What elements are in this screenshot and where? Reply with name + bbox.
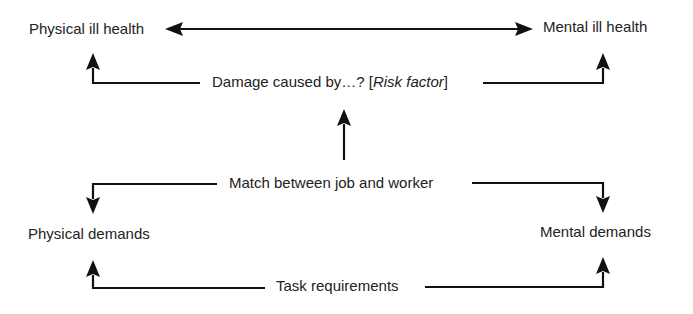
- arrowhead-down-icon: [86, 197, 100, 214]
- arrow-damage-to-mental: [483, 68, 603, 83]
- arrow-match-to-mental-demands: [472, 183, 603, 198]
- arrow-task-to-mental-demands: [425, 272, 603, 287]
- node-mental-demands: Mental demands: [540, 223, 651, 241]
- arrowhead-up-icon: [596, 53, 610, 70]
- node-match-job-worker: Match between job and worker: [229, 174, 433, 192]
- risk-factor-label: Risk factor: [373, 73, 444, 90]
- arrowhead-up-icon: [337, 109, 351, 126]
- node-mental-ill-health: Mental ill health: [543, 18, 647, 36]
- node-task-requirements: Task requirements: [276, 277, 399, 295]
- node-physical-demands: Physical demands: [28, 225, 150, 243]
- connector-arrows: [0, 0, 693, 314]
- arrowhead-up-icon: [86, 260, 100, 277]
- arrow-match-to-physical-demands: [93, 184, 217, 199]
- damage-label-prefix: Damage caused by…? [: [212, 73, 373, 90]
- node-damage-caused-by: Damage caused by…? [Risk factor]: [212, 73, 448, 91]
- arrow-task-to-physical-demands: [93, 275, 265, 288]
- arrowhead-up-icon: [86, 53, 100, 70]
- arrow-damage-to-physical: [93, 68, 200, 83]
- arrowhead-down-icon: [596, 196, 610, 213]
- arrowhead-up-icon: [596, 257, 610, 274]
- damage-label-suffix: ]: [444, 73, 448, 90]
- node-physical-ill-health: Physical ill health: [29, 20, 144, 38]
